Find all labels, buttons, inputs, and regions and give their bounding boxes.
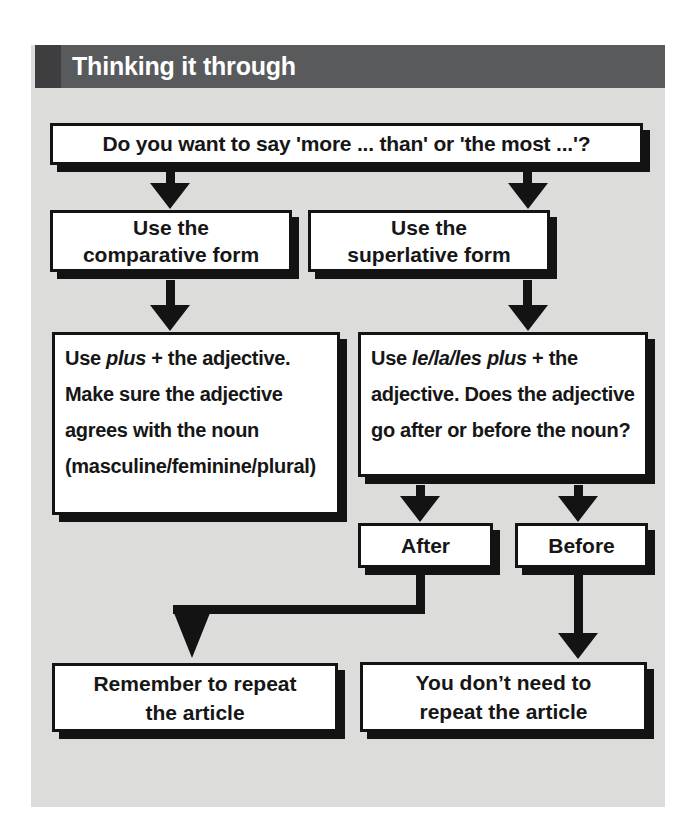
- before-result-box: You don’t need to repeat the article: [360, 662, 647, 732]
- arrow-after-elbow-horizontal: [173, 605, 425, 614]
- comparative-line2: comparative form: [83, 241, 259, 268]
- comparative-rule-pre: Use: [65, 347, 106, 369]
- arrow-rule-to-before-head: [558, 496, 598, 522]
- superlative-line2: superlative form: [347, 241, 510, 268]
- before-label: Before: [548, 534, 615, 558]
- superlative-rule-italic: le/la/les plus: [412, 347, 527, 369]
- arrow-before-to-result-head: [558, 633, 598, 659]
- before-result-line1: You don’t need to: [416, 668, 592, 697]
- after-result-box: Remember to repeat the article: [52, 663, 338, 732]
- superlative-box: Use the superlative form: [308, 210, 550, 272]
- arrow-superlative-to-rule-head: [508, 305, 548, 331]
- arrow-after-elbow-head: [174, 613, 210, 658]
- arrow-before-to-result-shaft: [574, 574, 583, 635]
- arrow-rule-to-after-head: [400, 496, 440, 522]
- comparative-rule-italic: plus: [106, 347, 146, 369]
- before-result-line2: repeat the article: [419, 697, 587, 726]
- page: Thinking it through Do you want to say '…: [0, 0, 694, 832]
- section-title: Thinking it through: [72, 52, 296, 81]
- arrow-comparative-to-rule-head: [150, 305, 190, 331]
- question-box: Do you want to say 'more ... than' or 't…: [50, 123, 643, 165]
- comparative-rule-box: Use plus + the adjective. Make sure the …: [52, 332, 340, 515]
- question-text: Do you want to say 'more ... than' or 't…: [103, 132, 591, 156]
- after-result-line2: the article: [145, 698, 244, 727]
- worksheet-panel: Thinking it through Do you want to say '…: [31, 45, 665, 807]
- superlative-rule-box: Use le/la/les plus + the adjective. Does…: [358, 332, 648, 477]
- after-label: After: [401, 534, 450, 558]
- superlative-rule-pre: Use: [371, 347, 412, 369]
- header-accent-block: [35, 45, 61, 88]
- arrow-superlative-to-rule-shaft: [523, 280, 532, 308]
- arrow-question-to-superlative-head: [508, 183, 548, 209]
- superlative-line1: Use the: [391, 214, 467, 241]
- arrow-comparative-to-rule-shaft: [166, 280, 175, 308]
- arrow-question-to-comparative-head: [150, 183, 190, 209]
- after-result-line1: Remember to repeat: [93, 669, 296, 698]
- after-box: After: [358, 523, 493, 568]
- before-box: Before: [515, 523, 648, 568]
- section-header: Thinking it through: [35, 45, 665, 88]
- comparative-line1: Use the: [133, 214, 209, 241]
- comparative-box: Use the comparative form: [50, 210, 292, 272]
